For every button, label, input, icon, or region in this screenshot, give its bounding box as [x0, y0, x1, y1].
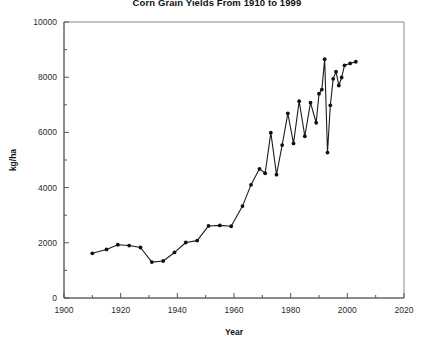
data-point-marker	[161, 259, 165, 263]
data-point-marker	[314, 121, 318, 125]
data-point-marker	[297, 99, 301, 103]
y-axis-title: kg/ha	[8, 149, 18, 171]
data-point-marker	[127, 244, 131, 248]
data-point-marker	[139, 246, 143, 250]
data-point-marker	[317, 92, 321, 96]
data-point-marker	[334, 70, 338, 74]
data-point-marker	[207, 224, 211, 228]
series-line-corn-grain-yield	[92, 59, 356, 262]
y-tick-label: 6000	[38, 127, 57, 137]
y-axis-ticks	[64, 22, 69, 298]
data-point-marker	[337, 84, 341, 88]
data-point-marker	[309, 101, 313, 105]
data-point-marker	[323, 57, 327, 61]
data-series-corn-grain-yield	[90, 57, 357, 264]
data-point-marker	[150, 260, 154, 264]
data-point-marker	[280, 143, 284, 147]
data-point-marker	[105, 248, 109, 252]
y-tick-label: 0	[52, 293, 57, 303]
data-point-marker	[343, 63, 347, 67]
x-tick-label: 2020	[395, 305, 414, 315]
data-point-marker	[116, 243, 120, 247]
data-point-marker	[286, 111, 290, 115]
data-point-marker	[292, 142, 296, 146]
chart-plot-area: 1900192019401960198020002020 02000400060…	[0, 0, 434, 361]
y-tick-label: 2000	[38, 238, 57, 248]
data-point-marker	[328, 103, 332, 107]
data-point-marker	[173, 251, 177, 255]
data-point-marker	[354, 60, 358, 64]
x-tick-label: 1920	[111, 305, 130, 315]
y-tick-label: 8000	[38, 72, 57, 82]
data-point-marker	[184, 241, 188, 245]
data-point-marker	[249, 183, 253, 187]
data-point-marker	[303, 134, 307, 138]
x-tick-label: 1960	[225, 305, 244, 315]
data-point-marker	[320, 88, 324, 92]
chart-title: Corn Grain Yields From 1910 to 1999	[0, 0, 434, 8]
y-axis-tick-labels: 0200040006000800010000	[33, 17, 57, 303]
data-point-marker	[275, 173, 279, 177]
data-point-marker	[229, 224, 233, 228]
data-point-marker	[340, 76, 344, 80]
data-point-marker	[90, 251, 94, 255]
x-tick-label: 2000	[338, 305, 357, 315]
data-point-marker	[326, 151, 330, 155]
chart-container: Corn Grain Yields From 1910 to 1999 1900…	[0, 0, 434, 361]
data-point-marker	[269, 131, 273, 135]
x-tick-label: 1940	[168, 305, 187, 315]
x-axis-title: Year	[225, 327, 244, 337]
data-point-marker	[195, 239, 199, 243]
data-point-marker	[263, 171, 267, 175]
y-tick-label: 4000	[38, 183, 57, 193]
data-point-marker	[258, 167, 262, 171]
data-point-marker	[218, 224, 222, 228]
data-point-marker	[331, 77, 335, 81]
x-axis-tick-labels: 1900192019401960198020002020	[55, 305, 414, 315]
plot-frame	[64, 22, 404, 298]
x-tick-label: 1900	[55, 305, 74, 315]
x-tick-label: 1980	[281, 305, 300, 315]
data-point-marker	[348, 62, 352, 66]
x-axis-ticks	[64, 293, 404, 298]
y-tick-label: 10000	[33, 17, 57, 27]
data-point-marker	[241, 204, 245, 208]
